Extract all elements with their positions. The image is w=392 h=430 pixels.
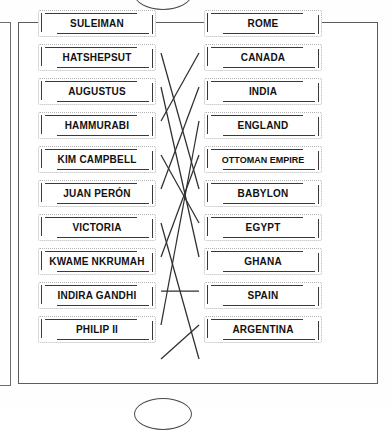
- binding-hole-bottom-icon: [134, 398, 192, 430]
- match-option-l2[interactable]: HATSHEPSUT: [38, 44, 156, 71]
- option-label: AUGUSTUS: [38, 78, 156, 105]
- option-label: PHILIP II: [38, 316, 156, 343]
- option-label: ENGLAND: [204, 112, 322, 139]
- option-label: KIM CAMPBELL: [38, 146, 156, 173]
- match-option-l3[interactable]: AUGUSTUS: [38, 78, 156, 105]
- match-option-r2[interactable]: CANADA: [204, 44, 322, 71]
- option-label: GHANA: [204, 248, 322, 275]
- binding-hole-top-icon: [134, 0, 192, 10]
- match-option-r6[interactable]: BABYLON: [204, 180, 322, 207]
- match-option-l4[interactable]: HAMMURABI: [38, 112, 156, 139]
- option-label: SPAIN: [204, 282, 322, 309]
- match-option-r8[interactable]: GHANA: [204, 248, 322, 275]
- match-option-r5[interactable]: OTTOMAN EMPIRE: [204, 146, 322, 173]
- option-label: INDIRA GANDHI: [38, 282, 156, 309]
- option-label: SULEIMAN: [38, 10, 156, 37]
- match-option-r3[interactable]: INDIA: [204, 78, 322, 105]
- match-option-r1[interactable]: ROME: [204, 10, 322, 37]
- option-label: BABYLON: [204, 180, 322, 207]
- option-label: KWAME NKRUMAH: [38, 248, 156, 275]
- option-label: OTTOMAN EMPIRE: [204, 146, 322, 173]
- option-label: INDIA: [204, 78, 322, 105]
- left-column: SULEIMANHATSHEPSUTAUGUSTUSHAMMURABIKIM C…: [38, 10, 156, 350]
- match-option-l1[interactable]: SULEIMAN: [38, 10, 156, 37]
- option-label: HATSHEPSUT: [38, 44, 156, 71]
- match-option-r7[interactable]: EGYPT: [204, 214, 322, 241]
- option-label: JUAN PERÓN: [38, 180, 156, 207]
- match-option-l9[interactable]: INDIRA GANDHI: [38, 282, 156, 309]
- option-label: VICTORIA: [38, 214, 156, 241]
- match-option-l8[interactable]: KWAME NKRUMAH: [38, 248, 156, 275]
- match-option-l7[interactable]: VICTORIA: [38, 214, 156, 241]
- option-label: ARGENTINA: [204, 316, 322, 343]
- match-option-r4[interactable]: ENGLAND: [204, 112, 322, 139]
- option-label: ROME: [204, 10, 322, 37]
- page-spine: [0, 22, 11, 386]
- option-label: HAMMURABI: [38, 112, 156, 139]
- match-option-l5[interactable]: KIM CAMPBELL: [38, 146, 156, 173]
- match-option-r9[interactable]: SPAIN: [204, 282, 322, 309]
- option-label: EGYPT: [204, 214, 322, 241]
- match-option-r10[interactable]: ARGENTINA: [204, 316, 322, 343]
- match-option-l6[interactable]: JUAN PERÓN: [38, 180, 156, 207]
- right-column: ROMECANADAINDIAENGLANDOTTOMAN EMPIREBABY…: [204, 10, 322, 350]
- option-label: CANADA: [204, 44, 322, 71]
- match-option-l10[interactable]: PHILIP II: [38, 316, 156, 343]
